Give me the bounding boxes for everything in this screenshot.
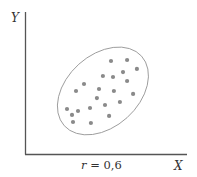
y-axis-label: Y (11, 11, 20, 25)
data-point (103, 103, 107, 107)
data-point (70, 113, 74, 117)
data-point (109, 59, 113, 63)
data-point (101, 74, 105, 78)
data-point (82, 82, 86, 86)
scatter-chart: Y X r = 0,6 (0, 0, 197, 177)
x-axis-label: X (173, 159, 183, 173)
data-point (97, 87, 101, 91)
data-point (131, 92, 135, 96)
data-point (76, 109, 80, 113)
data-points (65, 58, 139, 125)
data-point (88, 106, 92, 110)
correlation-ellipse (40, 29, 165, 152)
data-point (121, 70, 125, 74)
data-point (135, 67, 139, 71)
plot-area (40, 29, 165, 152)
data-point (95, 96, 99, 100)
data-point (111, 75, 115, 79)
data-point (125, 79, 129, 83)
correlation-annotation: r = 0,6 (81, 158, 122, 172)
data-point (71, 120, 75, 124)
data-point (65, 107, 69, 111)
correlation-value: = 0,6 (87, 158, 122, 172)
data-point (89, 121, 93, 125)
data-point (125, 58, 129, 62)
data-point (118, 100, 122, 104)
data-point (112, 89, 116, 93)
data-point (107, 114, 111, 118)
data-point (74, 89, 78, 93)
